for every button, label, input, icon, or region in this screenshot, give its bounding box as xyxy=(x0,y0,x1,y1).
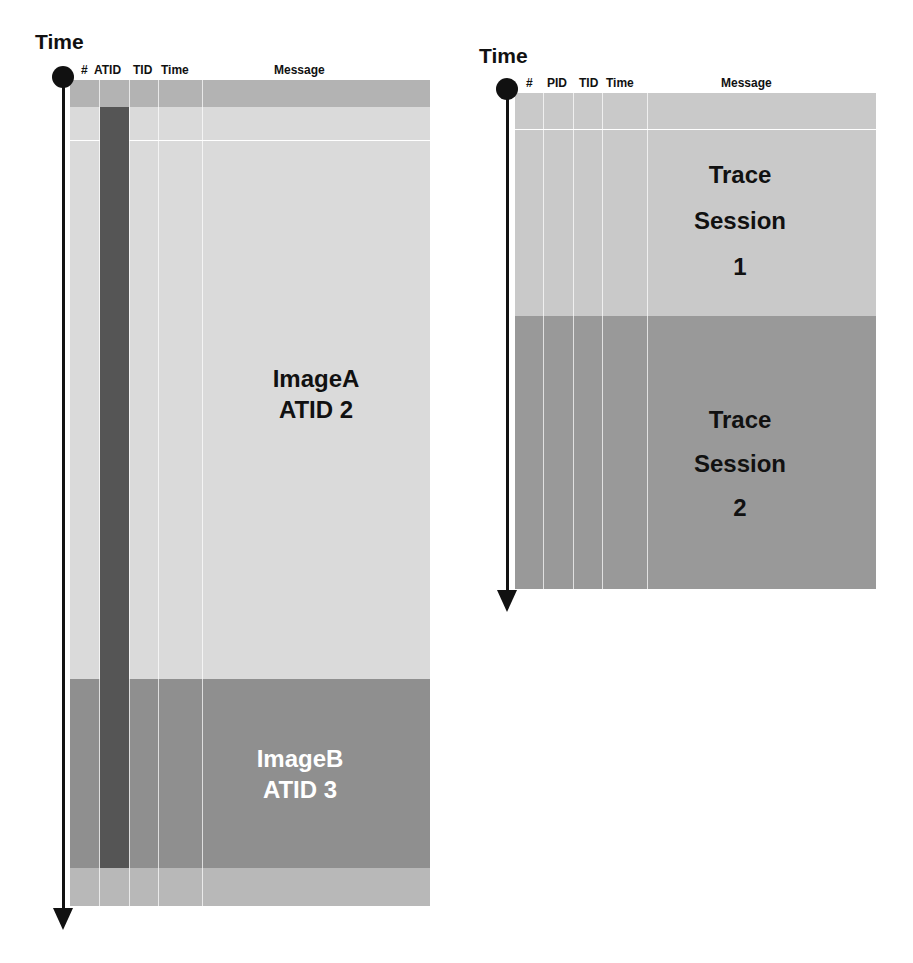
right-col-header-pid: PID xyxy=(547,76,567,90)
left-header-band xyxy=(70,80,430,107)
left-segment-imagea-label: ImageA ATID 2 xyxy=(202,363,430,425)
right-col-divider xyxy=(543,93,544,589)
left-time-axis-label: Time xyxy=(35,30,84,54)
right-time-axis-label: Time xyxy=(479,44,528,68)
right-col-header-tid: TID xyxy=(579,76,598,90)
right-col-divider xyxy=(573,93,574,589)
left-time-axis-arrow-icon xyxy=(53,908,73,930)
right-col-header-time: Time xyxy=(606,76,634,90)
left-col-header-tid: TID xyxy=(133,63,152,77)
left-time-axis-line xyxy=(62,72,65,912)
left-time-axis-start-dot xyxy=(52,66,74,88)
right-time-axis-start-dot xyxy=(496,78,518,100)
right-segment-session-2-label: Trace Session 2 xyxy=(640,398,840,530)
left-col-header-time: Time xyxy=(161,63,189,77)
left-col-divider xyxy=(158,80,159,906)
left-col-divider xyxy=(99,80,100,906)
left-col-divider xyxy=(129,80,130,906)
left-col-header-message: Message xyxy=(274,63,325,77)
right-col-header-message: Message xyxy=(721,76,772,90)
right-time-axis-arrow-icon xyxy=(497,590,517,612)
right-segment-session-1-label: Trace Session 1 xyxy=(640,152,840,290)
left-footer-band xyxy=(70,868,430,906)
left-col-header-atid: ATID xyxy=(94,63,121,77)
right-row-divider xyxy=(515,129,876,130)
right-col-divider xyxy=(602,93,603,589)
right-time-axis-line xyxy=(506,88,509,592)
right-col-header-num: # xyxy=(526,76,533,90)
left-segment-imageb-label: ImageB ATID 3 xyxy=(190,743,410,805)
left-col-header-num: # xyxy=(81,63,88,77)
left-atid-bar xyxy=(100,107,129,868)
